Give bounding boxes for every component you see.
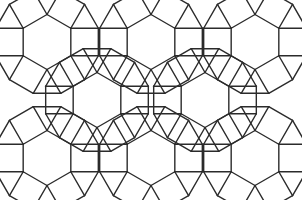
tiling-figure <box>0 0 302 200</box>
tiling-canvas <box>0 0 302 200</box>
